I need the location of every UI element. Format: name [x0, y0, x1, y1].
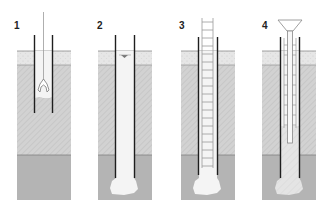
pile-diagram — [0, 0, 332, 221]
panel-1-drawing — [17, 12, 71, 200]
panel-4-drawing — [262, 20, 316, 200]
panel-3-drawing — [181, 18, 235, 200]
panel-2-drawing — [98, 35, 152, 200]
